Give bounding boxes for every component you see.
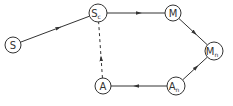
node-label: M <box>169 8 178 19</box>
edge-A-Sc <box>99 22 103 78</box>
node-A: A <box>95 78 111 94</box>
node-label: A <box>100 81 107 92</box>
node-Mn: Mn <box>205 42 223 60</box>
node-Sc: Sc <box>89 4 107 22</box>
nodes: SScMMnAnA <box>5 4 223 95</box>
edges <box>20 13 207 86</box>
node-M: M <box>165 5 181 21</box>
arrow-head-icon <box>57 28 59 29</box>
arrow-head-icon <box>193 32 194 33</box>
edge-S-Sc <box>20 16 89 42</box>
node-An: An <box>167 77 185 95</box>
edge-An-Mn <box>183 57 208 80</box>
arrow-head-icon <box>195 67 196 68</box>
node-label: S <box>10 40 16 51</box>
flow-diagram: SScMMnAnA <box>0 0 233 106</box>
edge-M-Mn <box>179 18 208 44</box>
node-S: S <box>5 37 21 53</box>
